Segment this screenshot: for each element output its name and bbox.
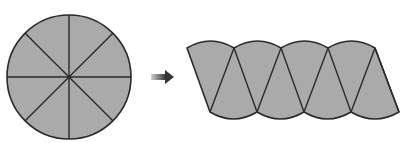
rearranged-sectors-parallelogram <box>187 41 399 119</box>
diagram-canvas <box>0 0 406 143</box>
right-arrow-icon <box>151 70 174 84</box>
diagram-svg <box>0 0 406 143</box>
center-point <box>67 75 71 79</box>
divided-circle <box>7 15 131 139</box>
